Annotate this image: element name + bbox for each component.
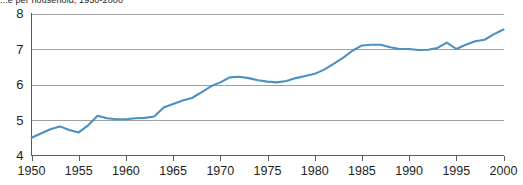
x-tick-label-1970: 1970: [206, 164, 234, 178]
x-tick-label-1990: 1990: [395, 164, 423, 178]
gridlines-group: [32, 15, 504, 121]
x-tick-label-1955: 1955: [65, 164, 93, 178]
data-line-value: [32, 29, 504, 137]
chart-figure: ...e per household, 1950-2000 87654 1950…: [0, 0, 523, 185]
x-tick-label-1985: 1985: [348, 164, 376, 178]
line-chart-plot: 87654 1950195519601965197019751980198519…: [0, 0, 523, 185]
x-tick-label-1950: 1950: [18, 164, 46, 178]
axes-group: [31, 13, 504, 156]
y-tick-label-4: 4: [16, 148, 23, 163]
y-tick-label-6: 6: [16, 77, 23, 92]
x-tick-label-1995: 1995: [442, 164, 470, 178]
x-tick-label-1965: 1965: [159, 164, 187, 178]
y-tick-label-8: 8: [16, 6, 23, 21]
x-tick-label-2000: 2000: [490, 164, 518, 178]
x-tick-label-1960: 1960: [112, 164, 140, 178]
x-tick-label-1975: 1975: [254, 164, 282, 178]
y-axis-labels-group: 87654: [16, 6, 23, 163]
x-axis-labels-group: 1950195519601965197019751980198519901995…: [18, 164, 518, 178]
data-series-group: [32, 29, 504, 137]
x-tick-label-1980: 1980: [301, 164, 329, 178]
y-tick-label-5: 5: [16, 113, 23, 128]
y-tick-label-7: 7: [16, 42, 23, 57]
